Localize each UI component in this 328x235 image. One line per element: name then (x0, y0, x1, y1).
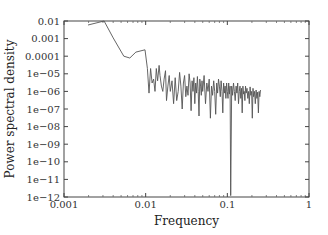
y-tick-label: 1e−06 (27, 86, 60, 97)
y-tick-label: 1e−10 (27, 156, 60, 167)
psd-chart: 0.0010.010.11 0.010.0010.00011e−051e−061… (0, 0, 328, 235)
y-tick-label: 1e−08 (27, 121, 60, 132)
y-tick-label: 1e−05 (27, 68, 60, 79)
y-tick-label: 0.001 (31, 33, 60, 44)
y-tick-label: 1e−07 (27, 104, 60, 115)
plot-frame (64, 21, 309, 197)
psd-line (88, 21, 261, 196)
x-tick-label: 1 (306, 199, 312, 210)
y-axis-ticks: 0.010.0010.00011e−051e−061e−071e−081e−09… (25, 16, 309, 203)
x-tick-label: 0.1 (219, 199, 235, 210)
y-tick-label: 0.0001 (25, 51, 60, 62)
y-axis-title: Power spectral density (3, 39, 17, 178)
y-tick-label: 0.01 (38, 16, 60, 27)
x-axis-ticks: 0.0010.010.11 (50, 21, 313, 210)
y-tick-label: 1e−11 (27, 174, 60, 185)
data-series (88, 21, 261, 196)
y-tick-label: 1e−09 (27, 139, 60, 150)
x-axis-title: Frequency (154, 214, 219, 228)
y-tick-label: 1e−12 (27, 192, 60, 203)
x-tick-label: 0.01 (135, 199, 157, 210)
